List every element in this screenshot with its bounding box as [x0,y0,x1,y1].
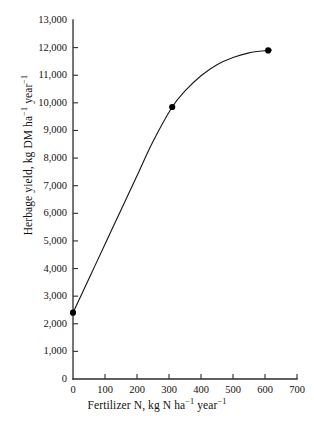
y-axis-ticks [73,48,78,352]
data-point-marker [169,104,175,110]
data-curve [73,50,271,313]
x-axis-ticks [105,374,297,379]
data-point-marker [265,47,271,53]
axis-lines [73,20,297,379]
chart-figure: Herbage yield, kg DM ha−1 year−1 Fertili… [0,0,314,426]
plot-area [0,0,314,426]
data-point-marker [70,310,76,316]
data-point-markers [70,47,271,316]
